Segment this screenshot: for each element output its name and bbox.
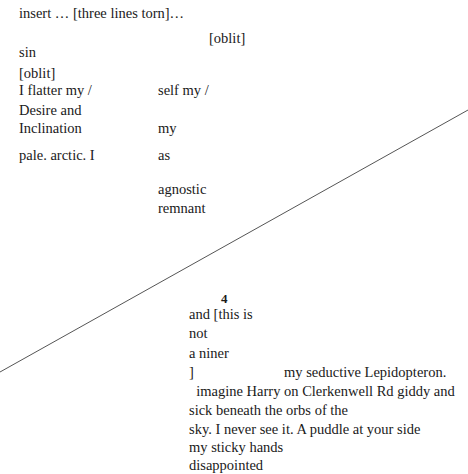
insert-torn-line: insert … [three lines torn]…	[19, 5, 184, 22]
paragraph-line-5: disappointed	[189, 457, 263, 474]
sin-word: sin	[19, 44, 36, 61]
right-line-1: self my /	[158, 82, 209, 99]
oblit-mark: [oblit]	[19, 65, 55, 82]
right-line-3: as	[158, 147, 170, 164]
left-line-1: I flatter my /	[19, 82, 92, 99]
lower-line-2: not	[189, 325, 208, 342]
right-line-5: remnant	[158, 200, 206, 217]
lepidopteron-line: my seductive Lepidopteron.	[284, 364, 446, 381]
oblit-mark: [oblit]	[209, 30, 245, 47]
paragraph-line-4: my sticky hands	[189, 439, 283, 456]
lower-line-1: and [this is	[189, 306, 253, 323]
left-line-4: pale. arctic. I	[19, 147, 95, 164]
paragraph-line-3: sky. I never see it. A puddle at your si…	[189, 421, 420, 438]
paragraph-line-2: sick beneath the orbs of the	[189, 402, 348, 419]
left-line-3: Inclination	[19, 120, 82, 137]
lower-line-3: a niner	[189, 345, 229, 362]
right-line-4: agnostic	[158, 181, 206, 198]
paragraph-line-1: imagine Harry on Clerkenwell Rd giddy an…	[189, 383, 455, 400]
right-line-2: my	[158, 120, 177, 137]
lower-line-4: ]	[189, 364, 194, 381]
left-line-2: Desire and	[19, 102, 81, 119]
page-number: 4	[221, 290, 228, 307]
